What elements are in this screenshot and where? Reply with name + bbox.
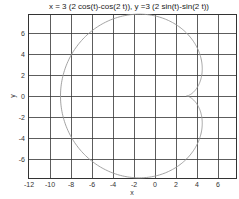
x-tick-label: -2 bbox=[131, 181, 137, 188]
chart: x = 3 (2 cos(t)-cos(2 t)), y =3 (2 sin(t… bbox=[0, 0, 239, 199]
x-tick-labels: -12-10-8-6-4-20246 bbox=[24, 181, 220, 188]
y-tick-label: 0 bbox=[21, 93, 25, 100]
y-axis-label: y bbox=[9, 94, 17, 98]
cardioid-curve bbox=[61, 14, 203, 178]
y-tick-label: 4 bbox=[21, 51, 25, 58]
y-tick-label: -4 bbox=[19, 135, 25, 142]
x-tick-label: -12 bbox=[24, 181, 34, 188]
y-tick-label: -6 bbox=[19, 156, 25, 163]
y-tick-labels: -6-4-20246 bbox=[19, 30, 25, 163]
x-tick-label: -8 bbox=[68, 181, 74, 188]
y-tick-label: -2 bbox=[19, 114, 25, 121]
x-axis-label: x bbox=[130, 189, 134, 196]
y-tick-label: 6 bbox=[21, 30, 25, 37]
y-tick-label: 2 bbox=[21, 72, 25, 79]
chart-title: x = 3 (2 cos(t)-cos(2 t)), y =3 (2 sin(t… bbox=[49, 2, 209, 11]
x-tick-label: 6 bbox=[216, 181, 220, 188]
x-tick-label: -4 bbox=[110, 181, 116, 188]
x-tick-label: 0 bbox=[153, 181, 157, 188]
grid-lines bbox=[29, 15, 237, 179]
x-tick-label: -6 bbox=[89, 181, 95, 188]
x-tick-label: 4 bbox=[195, 181, 199, 188]
x-tick-label: 2 bbox=[174, 181, 178, 188]
x-tick-label: -10 bbox=[45, 181, 55, 188]
